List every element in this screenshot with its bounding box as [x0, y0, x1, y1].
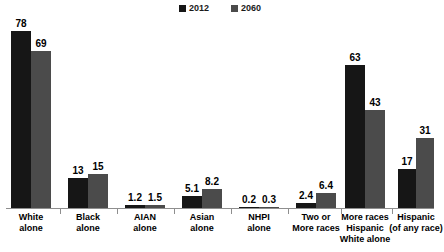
bar-group: 6343	[340, 18, 390, 208]
bar-2060: 69	[31, 18, 51, 208]
category-label-line: Asian	[171, 212, 233, 223]
category-label: NHPIalone	[228, 212, 290, 234]
bar-rect	[365, 110, 385, 208]
bar-rect	[11, 31, 31, 208]
bar-2012: 13	[68, 18, 88, 208]
bar-rect	[316, 193, 336, 208]
bar-value-label: 43	[369, 98, 380, 108]
bar-2012: 63	[345, 18, 365, 208]
bar-2012: 17	[398, 18, 416, 208]
bar-rect	[182, 196, 202, 208]
category-label-line: Hispanic	[388, 212, 444, 223]
bar-2060: 8.2	[202, 18, 222, 208]
bar-group: 1315	[63, 18, 113, 208]
bar-rect	[88, 174, 108, 208]
bar-rect	[125, 205, 145, 208]
category-label-line: NHPI	[228, 212, 290, 223]
category-axis-labels: WhitealoneBlackaloneAIANaloneAsianaloneN…	[0, 212, 440, 252]
category-label-line: alone	[228, 223, 290, 234]
category-label-line: alone	[171, 223, 233, 234]
bar-rect	[296, 203, 316, 208]
bar-group: 0.20.3	[234, 18, 284, 208]
bar-group: 5.18.2	[177, 18, 227, 208]
legend-item-2060: 2060	[231, 4, 261, 13]
category-label-line: White	[0, 212, 62, 223]
bar-2060: 1.5	[145, 18, 165, 208]
bar-value-label: 13	[72, 166, 83, 176]
bar-2012: 2.4	[296, 18, 316, 208]
bar-rect	[398, 169, 416, 208]
bar-rect	[202, 189, 222, 208]
bar-value-label: 31	[419, 126, 430, 136]
bar-value-label: 6.4	[319, 181, 333, 191]
category-label-line: (of any race)	[388, 223, 444, 234]
bar-value-label: 17	[401, 157, 412, 167]
bar-value-label: 1.2	[128, 193, 142, 203]
category-label: Hispanic(of any race)	[388, 212, 444, 234]
bar-2060: 43	[365, 18, 385, 208]
legend-label-2012: 2012	[189, 4, 209, 13]
category-label: Whitealone	[0, 212, 62, 234]
category-label-line: AIAN	[114, 212, 176, 223]
bar-value-label: 5.1	[185, 184, 199, 194]
bar-2012: 1.2	[125, 18, 145, 208]
bar-value-label: 2.4	[299, 191, 313, 201]
bar-group: 7869	[6, 18, 56, 208]
bar-rect	[345, 65, 365, 208]
bar-2012: 0.2	[239, 18, 259, 208]
category-label-line: alone	[114, 223, 176, 234]
category-label-line: alone	[0, 223, 62, 234]
bar-rect	[145, 205, 165, 208]
bar-rect	[259, 207, 279, 208]
bar-rect	[68, 178, 88, 208]
x-axis-line	[6, 208, 434, 209]
bar-rect	[31, 51, 51, 208]
square-marker-icon	[179, 5, 186, 12]
category-label: AIANalone	[114, 212, 176, 234]
bar-rect	[239, 207, 259, 208]
bar-value-label: 15	[92, 162, 103, 172]
bar-group: 1731	[394, 18, 438, 208]
bar-value-label: 63	[349, 53, 360, 63]
category-label: Blackalone	[57, 212, 119, 234]
bar-group: 1.21.5	[120, 18, 170, 208]
category-label: More racesHispanicWhite alone	[334, 212, 396, 245]
plot-area: 786913151.21.55.18.20.20.32.46.463431731	[0, 18, 440, 208]
bar-value-label: 0.3	[262, 195, 276, 205]
bar-value-label: 69	[35, 39, 46, 49]
bar-rect	[416, 138, 434, 208]
legend-label-2060: 2060	[241, 4, 261, 13]
category-label-line: White alone	[334, 234, 396, 245]
bar-2012: 78	[11, 18, 31, 208]
square-marker-icon	[231, 5, 238, 12]
bar-2060: 6.4	[316, 18, 336, 208]
bar-value-label: 1.5	[148, 193, 162, 203]
category-label-line: Hispanic	[334, 223, 396, 234]
chart-legend: 2012 2060	[0, 4, 440, 13]
category-label-line: Black	[57, 212, 119, 223]
category-label-line: alone	[57, 223, 119, 234]
bar-value-label: 8.2	[205, 177, 219, 187]
bar-2012: 5.1	[182, 18, 202, 208]
bar-value-label: 78	[15, 19, 26, 29]
bar-2060: 15	[88, 18, 108, 208]
legend-item-2012: 2012	[179, 4, 209, 13]
category-label: Asianalone	[171, 212, 233, 234]
bar-2060: 31	[416, 18, 434, 208]
bar-group: 2.46.4	[291, 18, 341, 208]
category-label-line: More races	[334, 212, 396, 223]
bar-2060: 0.3	[259, 18, 279, 208]
bar-value-label: 0.2	[242, 195, 256, 205]
